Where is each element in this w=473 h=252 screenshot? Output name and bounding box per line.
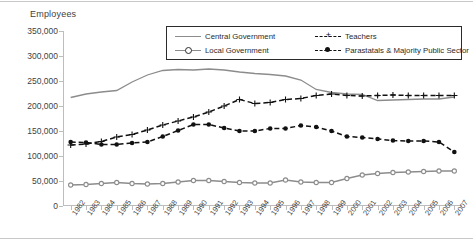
data-point [375, 137, 380, 142]
data-point [406, 139, 411, 144]
data-point [283, 178, 287, 182]
data-point [406, 170, 410, 174]
data-point [374, 92, 380, 98]
data-point [252, 100, 258, 106]
data-point [298, 95, 304, 101]
y-tick-mark [59, 156, 63, 157]
data-point [99, 181, 103, 185]
data-point [421, 139, 426, 144]
data-point [145, 140, 150, 145]
data-point [84, 140, 89, 145]
data-point [99, 142, 104, 147]
data-point [329, 180, 333, 184]
data-point [68, 140, 73, 145]
data-point [191, 178, 195, 182]
data-point [191, 122, 196, 127]
data-point [175, 118, 181, 124]
y-tick-mark [59, 31, 63, 32]
data-point [84, 182, 88, 186]
data-point [130, 181, 134, 185]
series-local-government [69, 169, 457, 187]
data-point [283, 126, 288, 131]
legend-marker-plus-icon: + [315, 32, 341, 41]
data-point [206, 109, 212, 115]
data-point [391, 138, 396, 143]
data-point [313, 92, 319, 98]
chart-screenshot: Employees 350,000300,000250,000200,00015… [0, 0, 473, 252]
data-point [115, 180, 119, 184]
data-point [176, 128, 181, 133]
data-point [222, 179, 226, 183]
data-point [314, 125, 319, 130]
data-point [207, 178, 211, 182]
data-point [436, 92, 442, 98]
data-point [69, 183, 73, 187]
data-point [221, 103, 227, 109]
data-point [236, 96, 242, 102]
legend-label: Parastatals & Majority Public Sector [345, 46, 469, 55]
data-point [253, 181, 257, 185]
chart-legend: Central GovernmentLocal Government+Teach… [166, 26, 462, 60]
legend-label: Central Government [205, 32, 275, 41]
data-point [452, 169, 456, 173]
legend-item[interactable]: +Teachers [315, 32, 377, 41]
data-point [160, 134, 165, 139]
data-point [405, 92, 411, 98]
data-point [375, 171, 379, 175]
data-point [190, 114, 196, 120]
legend-label: Teachers [345, 32, 377, 41]
data-point [129, 131, 135, 137]
data-point [268, 181, 272, 185]
legend-marker-circle-filled-icon [315, 46, 341, 55]
data-point [299, 180, 303, 184]
data-point [282, 96, 288, 102]
data-point [176, 180, 180, 184]
y-tick-mark [59, 56, 63, 57]
data-point [421, 92, 427, 98]
data-point [329, 129, 334, 134]
legend-marker-line-icon [175, 32, 201, 41]
data-point [422, 169, 426, 173]
legend-item[interactable]: Parastatals & Majority Public Sector [315, 46, 469, 55]
data-point [114, 142, 119, 147]
y-tick-mark [59, 81, 63, 82]
data-point [268, 126, 273, 131]
y-tick-mark [59, 206, 63, 207]
series-line [71, 94, 455, 145]
series-parastatals-majority-public-sector [68, 122, 456, 154]
data-point [345, 176, 349, 180]
data-point [222, 126, 227, 131]
data-point [114, 134, 120, 140]
series-line [71, 171, 455, 185]
data-point [452, 150, 457, 155]
legend-symbol [325, 47, 330, 52]
data-point [390, 92, 396, 98]
data-point [145, 182, 149, 186]
data-point [299, 123, 304, 128]
legend-item[interactable]: Local Government [175, 46, 269, 55]
data-point [360, 135, 365, 140]
data-point [345, 134, 350, 139]
legend-symbol: + [325, 32, 332, 39]
legend-item[interactable]: Central Government [175, 32, 275, 41]
y-tick-mark [59, 131, 63, 132]
y-tick-mark [59, 106, 63, 107]
data-point [144, 127, 150, 133]
legend-marker-circle-open-icon [175, 46, 201, 55]
series-line [71, 125, 455, 153]
data-point [360, 173, 364, 177]
data-point [206, 122, 211, 127]
data-point [237, 129, 242, 134]
series-line [71, 69, 455, 101]
legend-label: Local Government [205, 46, 269, 55]
data-point [391, 170, 395, 174]
data-point [253, 129, 258, 134]
series-central-government [71, 69, 455, 101]
data-point [437, 169, 441, 173]
legend-symbol [185, 47, 192, 54]
data-point [437, 140, 442, 145]
y-tick-mark [59, 181, 63, 182]
data-point [237, 180, 241, 184]
data-point [161, 181, 165, 185]
data-point [267, 99, 273, 105]
